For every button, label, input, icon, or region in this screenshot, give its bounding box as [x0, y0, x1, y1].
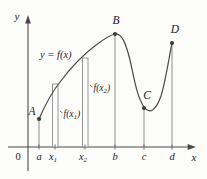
point-dot-c — [142, 106, 146, 110]
x-axis-label: x — [191, 151, 197, 163]
curve-equation-label: y = f(x) — [39, 49, 72, 61]
ordinate-strips-group — [53, 58, 89, 147]
fx2-text: f(x2) — [94, 83, 111, 95]
fx1-text: f(x1) — [64, 109, 81, 121]
axes-group — [8, 15, 196, 171]
tick-label-b: b — [112, 151, 117, 162]
tick-label-d: d — [169, 151, 175, 162]
y-axis-arrowhead — [25, 15, 31, 23]
tick-label-a: a — [36, 151, 41, 162]
tick-label-x2: x2 — [78, 151, 88, 164]
point-dot-b — [113, 32, 117, 36]
y-axis-label: y — [14, 10, 20, 22]
origin-label: 0 — [15, 151, 20, 162]
strip-at-x2 — [83, 58, 89, 147]
point-label-c: C — [143, 89, 151, 101]
point-dot-d — [170, 41, 174, 45]
ordinate-label-fx2: f(x2) — [90, 83, 110, 95]
point-label-b: B — [112, 14, 119, 26]
tick-label-c: c — [142, 151, 147, 162]
strip-at-x1 — [53, 84, 59, 147]
function-graph-figure: y x 0 — [0, 0, 207, 179]
point-dot-a — [37, 117, 41, 121]
figure-canvas: y x 0 — [0, 0, 207, 179]
point-label-d: D — [170, 23, 180, 35]
pointer-tick-fx1 — [60, 111, 63, 113]
ordinate-label-fx1: f(x1) — [60, 109, 80, 121]
point-label-a: A — [27, 105, 36, 117]
function-curve — [39, 34, 172, 119]
tick-label-x1: x1 — [48, 151, 57, 164]
x-axis-arrowhead — [188, 144, 196, 150]
pointer-tick-fx2 — [90, 85, 93, 87]
